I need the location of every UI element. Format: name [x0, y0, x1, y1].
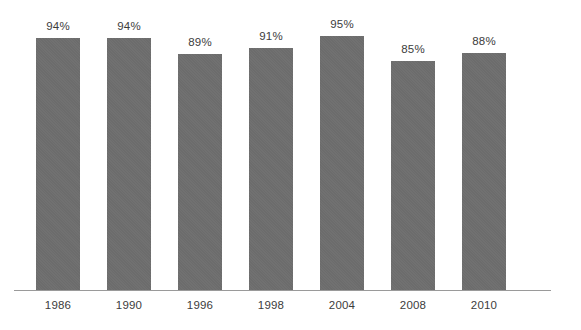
x-tick-1986: 1986	[36, 300, 80, 312]
bar-value-label: 88%	[472, 36, 496, 48]
bar-value-label: 95%	[330, 19, 354, 31]
bar-group-2004[interactable]: 95%	[320, 19, 364, 292]
bar-group-1996[interactable]: 89%	[178, 37, 222, 292]
bar-2010[interactable]	[462, 53, 506, 291]
bar-1990[interactable]	[107, 38, 151, 291]
bar-value-label: 91%	[259, 31, 283, 43]
x-axis-labels: 1986 1990 1996 1998 2004 2008 2010	[0, 291, 581, 330]
bar-group-1986[interactable]: 94%	[36, 21, 80, 292]
bar-1998[interactable]	[249, 48, 293, 291]
bar-group-2010[interactable]: 88%	[462, 36, 506, 292]
bar-group-1990[interactable]: 94%	[107, 21, 151, 292]
bar-value-label: 94%	[46, 21, 70, 33]
bar-2008[interactable]	[391, 61, 435, 291]
bar-value-label: 89%	[188, 37, 212, 49]
bar-group-1998[interactable]: 91%	[249, 31, 293, 292]
x-tick-2004: 2004	[320, 300, 364, 312]
plot-area: 94% 94% 89% 91% 95% 85% 88%	[0, 0, 581, 291]
x-tick-1990: 1990	[107, 300, 151, 312]
x-tick-1998: 1998	[249, 300, 293, 312]
bar-group-2008[interactable]: 85%	[391, 44, 435, 292]
x-tick-2008: 2008	[391, 300, 435, 312]
bar-1996[interactable]	[178, 54, 222, 291]
bar-1986[interactable]	[36, 38, 80, 291]
bar-value-label: 94%	[117, 21, 141, 33]
bar-2004[interactable]	[320, 36, 364, 291]
bar-value-label: 85%	[401, 44, 425, 56]
x-tick-2010: 2010	[462, 300, 506, 312]
bar-chart: 94% 94% 89% 91% 95% 85% 88%	[0, 0, 581, 330]
x-tick-1996: 1996	[178, 300, 222, 312]
